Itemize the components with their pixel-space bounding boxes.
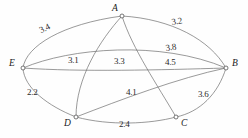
graph-diagram-canvas: 3.43.23.83.13.34.52.24.13.62.4 AEBDC <box>0 0 248 138</box>
node-E[interactable] <box>21 66 25 70</box>
edge-weight-A-B: 3.2 <box>171 16 183 27</box>
node-label-E: E <box>9 59 15 69</box>
node-label-D: D <box>64 119 71 129</box>
node-C[interactable] <box>174 115 178 119</box>
edge-weight-A-D: 3.1 <box>68 56 79 65</box>
edge-E-B-lower <box>23 68 226 70</box>
edge-layer <box>23 16 226 123</box>
node-label-A: A <box>112 4 118 14</box>
node-label-B: B <box>232 59 238 69</box>
edge-weight-E-D: 2.2 <box>27 88 38 97</box>
edge-weight-C-B: 3.6 <box>198 90 209 99</box>
edge-weight-D-B: 4.1 <box>126 88 137 97</box>
edge-weight-E-B: 4.5 <box>165 58 176 67</box>
node-label-C: C <box>181 119 187 129</box>
node-A[interactable] <box>120 14 124 18</box>
edge-weight-A-C: 3.3 <box>114 57 125 66</box>
node-D[interactable] <box>74 115 78 119</box>
node-B[interactable] <box>224 66 228 70</box>
graph-svg <box>0 0 248 138</box>
edge-weight-E-B: 3.8 <box>165 43 177 53</box>
edge-weight-D-C: 2.4 <box>119 120 130 129</box>
